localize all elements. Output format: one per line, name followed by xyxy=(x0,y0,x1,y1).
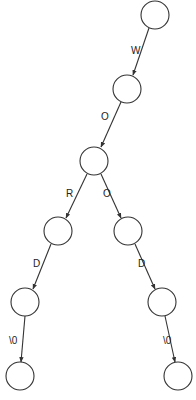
nodes xyxy=(6,1,192,390)
node-word xyxy=(11,288,39,316)
label-null-left: \0 xyxy=(9,335,18,346)
node-word-end xyxy=(6,362,34,390)
node-wor xyxy=(44,217,72,245)
node-root xyxy=(141,1,169,29)
edge-o-1 xyxy=(101,102,121,147)
label-d-left: D xyxy=(33,258,40,269)
label-r: R xyxy=(66,188,73,199)
node-w xyxy=(113,75,141,103)
trie-diagram: W O R O D D \0 \0 xyxy=(0,0,196,400)
node-wo xyxy=(80,147,108,175)
node-woo xyxy=(114,217,142,245)
node-wood-end xyxy=(164,362,192,390)
label-d-right: D xyxy=(138,258,145,269)
label-w: W xyxy=(131,45,141,56)
label-null-right: \0 xyxy=(163,335,172,346)
node-wood xyxy=(148,288,176,316)
label-o-1: O xyxy=(101,111,109,122)
label-o-2: O xyxy=(103,188,111,199)
edge-null-left xyxy=(21,316,25,362)
